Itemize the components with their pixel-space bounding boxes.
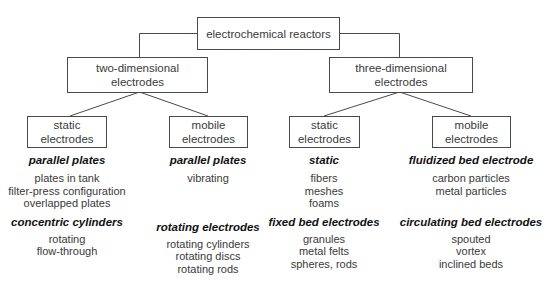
list-item: rotating (0, 233, 142, 246)
list-item: metal felts (249, 245, 399, 258)
list-item: granules (249, 233, 399, 246)
list-item: foams (249, 197, 399, 210)
node-label-line2: electrodes (111, 75, 164, 89)
list-item: inclined beds (396, 258, 546, 271)
column-2d-static: parallel plates plates in tank filter-pr… (0, 153, 142, 258)
list-item: vortex (396, 245, 546, 258)
node-2d-mobile-electrodes: mobile electrodes (169, 116, 248, 148)
node-two-dimensional-electrodes: two-dimensional electrodes (67, 57, 208, 93)
connector-root-to-3d (340, 34, 400, 58)
connector-3d-to-static (324, 92, 400, 116)
connector-2d-to-mobile (140, 92, 209, 116)
root-node-electrochemical-reactors: electrochemical reactors (197, 17, 340, 50)
node-label-line2: electrodes (182, 132, 235, 146)
node-3d-mobile-electrodes: mobile electrodes (432, 116, 511, 148)
node-label-line1: three-dimensional (355, 61, 446, 75)
column-3d-static: static fibers meshes foams fixed bed ele… (249, 153, 399, 270)
node-three-dimensional-electrodes: three-dimensional electrodes (329, 57, 473, 93)
group-heading: circulating bed electrodes (396, 215, 546, 229)
node-label-line1: mobile (455, 118, 489, 132)
node-label-line2: electrodes (445, 132, 498, 146)
group-heading: fluidized bed electrode (396, 153, 546, 167)
group-heading: parallel plates (0, 153, 142, 167)
list-item: carbon particles (396, 172, 546, 185)
group-heading: fixed bed electrodes (249, 215, 399, 229)
node-label-line1: mobile (192, 118, 226, 132)
node-label-line2: electrodes (298, 132, 351, 146)
list-item: flow-through (0, 245, 142, 258)
node-label-line2: electrodes (40, 132, 93, 146)
list-item: spouted (396, 233, 546, 246)
list-item: fibers (249, 172, 399, 185)
connector-3d-to-mobile (400, 92, 472, 116)
node-label-line1: static (311, 118, 338, 132)
list-item: filter-press configuration (0, 185, 142, 198)
root-label: electrochemical reactors (206, 27, 331, 41)
list-item: spheres, rods (249, 258, 399, 271)
column-3d-mobile: fluidized bed electrode carbon particles… (396, 153, 546, 270)
connector-2d-to-static (70, 92, 140, 116)
node-label-line1: static (54, 118, 81, 132)
node-label-line2: electrodes (374, 75, 427, 89)
list-item: plates in tank (0, 172, 142, 185)
list-item: meshes (249, 185, 399, 198)
node-3d-static-electrodes: static electrodes (289, 116, 360, 148)
list-item: metal particles (396, 185, 546, 198)
node-label-line1: two-dimensional (96, 61, 179, 75)
connector-root-to-2d (140, 34, 198, 58)
group-heading: static (249, 153, 399, 167)
node-2d-static-electrodes: static electrodes (27, 116, 107, 148)
group-heading: concentric cylinders (0, 215, 142, 229)
list-item: overlapped plates (0, 197, 142, 210)
